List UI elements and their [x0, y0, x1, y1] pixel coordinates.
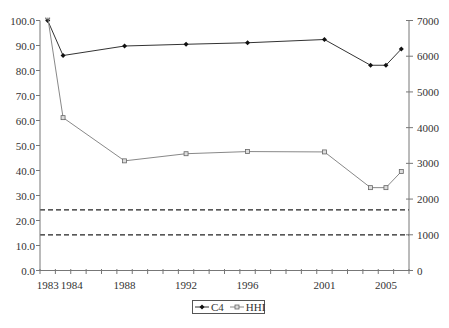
right-axis-tick-label: 1000 [417, 229, 440, 241]
right-axis-tick-label: 4000 [417, 122, 440, 134]
x-axis-tick-label: 1988 [114, 279, 137, 291]
left-axis-tick-label: 20.0 [16, 215, 36, 227]
hhi-data-point [184, 152, 188, 156]
chart-legend: C4 HHI [192, 300, 265, 314]
c4-data-point [368, 63, 373, 68]
x-axis-tick-label: 1992 [175, 279, 197, 291]
c4-data-point [122, 44, 127, 49]
hhi-data-point [322, 150, 326, 154]
hhi-data-point [369, 186, 373, 190]
hhi-series-line [48, 17, 402, 188]
left-axis-tick-label: 0.0 [21, 265, 35, 277]
c4-series-line [48, 21, 402, 66]
left-axis-tick-label: 60.0 [16, 115, 36, 127]
hhi-data-point [61, 116, 65, 120]
right-axis-tick-label: 5000 [417, 86, 440, 98]
legend-entry-hhi: HHI [230, 301, 266, 313]
left-axis-tick-label: 90.0 [16, 40, 36, 52]
hhi-data-point [246, 150, 250, 154]
hhi-data-point [384, 186, 388, 190]
left-axis-tick-label: 30.0 [16, 190, 36, 202]
c4-data-point [245, 40, 250, 45]
left-axis-tick-label: 10.0 [16, 240, 36, 252]
hhi-data-point [46, 15, 50, 19]
x-axis-tick-label: 1984 [61, 279, 84, 291]
x-axis-tick-label: 2005 [375, 279, 398, 291]
c4-data-point [61, 53, 66, 58]
right-axis-tick-label: 2000 [417, 193, 440, 205]
x-axis-tick-label: 1983 [37, 279, 60, 291]
left-axis-tick-label: 50.0 [16, 140, 36, 152]
chart-canvas: 0.010.020.030.040.050.060.070.080.090.01… [0, 0, 449, 328]
left-axis-tick-label: 40.0 [16, 165, 36, 177]
left-axis-tick-label: 80.0 [16, 65, 36, 77]
hhi-data-point [399, 170, 403, 174]
square-marker-icon [230, 303, 244, 311]
legend-entry-c4: C4 [195, 301, 224, 313]
c4-data-point [322, 37, 327, 42]
hhi-data-point [123, 159, 127, 163]
plot-area [45, 15, 404, 190]
legend-label-c4: C4 [211, 301, 224, 313]
c4-data-point [184, 42, 189, 47]
legend-label-hhi: HHI [246, 301, 266, 313]
right-axis-tick-label: 7000 [417, 15, 440, 27]
right-axis-tick-label: 0 [417, 265, 423, 277]
diamond-marker-icon [195, 303, 209, 311]
x-axis-tick-label: 2001 [313, 279, 335, 291]
left-axis-tick-label: 70.0 [16, 90, 36, 102]
left-axis-tick-label: 100.0 [10, 15, 35, 27]
x-axis-tick-label: 1996 [237, 279, 260, 291]
right-axis-tick-label: 3000 [417, 157, 440, 169]
right-axis-tick-label: 6000 [417, 50, 440, 62]
